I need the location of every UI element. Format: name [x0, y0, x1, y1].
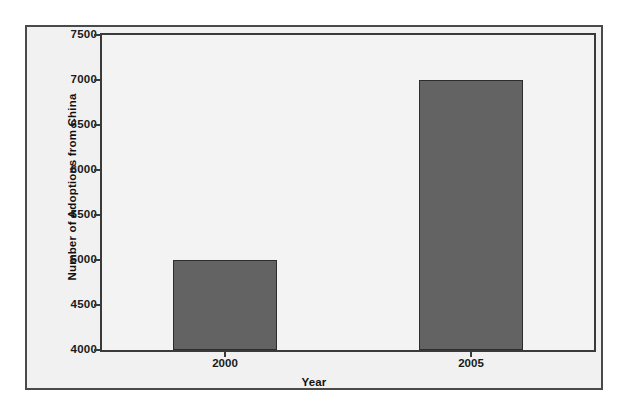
x-axis-tick-mark: [470, 352, 472, 357]
y-axis-tick-labels: 40004500500055006000650070007500: [47, 27, 97, 392]
chart-figure: Number of Adoptions from China 400045005…: [25, 25, 603, 390]
x-axis-tick-mark: [224, 352, 226, 357]
plot-area: [100, 33, 596, 352]
x-axis-tick-label: 2005: [458, 357, 484, 369]
plot-inner: [102, 35, 594, 350]
bar: [173, 260, 276, 350]
bar: [419, 80, 522, 350]
x-axis-title: Year: [27, 376, 601, 388]
x-axis-tick-label: 2000: [212, 357, 238, 369]
